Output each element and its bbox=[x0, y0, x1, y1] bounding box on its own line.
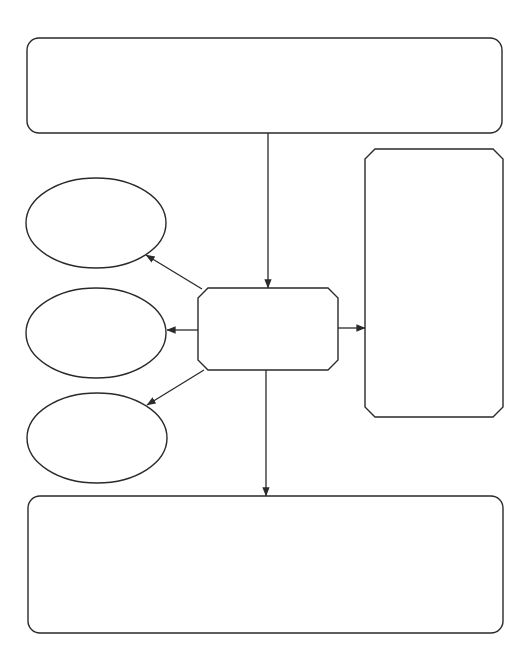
bottom-box bbox=[28, 496, 503, 633]
arrow-center-to-ellipse-3 bbox=[147, 370, 204, 405]
top-box bbox=[27, 38, 502, 133]
ellipse-2 bbox=[26, 288, 166, 378]
right-box bbox=[365, 149, 503, 417]
diagram-canvas bbox=[0, 0, 532, 667]
node-group bbox=[26, 38, 503, 633]
ellipse-1 bbox=[26, 178, 166, 268]
center-box bbox=[198, 288, 338, 370]
arrow-center-to-ellipse-1 bbox=[146, 255, 202, 289]
ellipse-3 bbox=[27, 393, 167, 483]
diagram-svg bbox=[0, 0, 532, 667]
